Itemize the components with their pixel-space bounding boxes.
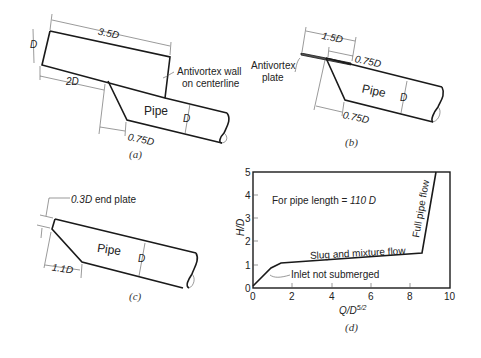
full-pipe-flow-label: Full pipe flow (410, 178, 431, 238)
y-tick-1: 1 (245, 260, 251, 271)
dim-0-75d-plate: 0.75D (354, 53, 382, 69)
dim-d-pipe-b: D (400, 92, 407, 103)
pipe-a-top (165, 98, 227, 113)
dim-2d: 2D (65, 76, 79, 87)
panel-c: 1.1D D Pipe 0.3D end plate (c) (37, 194, 197, 303)
caption-c: (c) (129, 290, 142, 303)
dim-0-75d-a: 0.75D (127, 131, 155, 147)
dim-3-5d: 3.5D (97, 26, 120, 41)
panel-a: 3.5D D 2D 0.75D D Pipe Antivortex wall o… (30, 14, 241, 161)
pipe-b-break (432, 87, 443, 122)
dim-1-1d: 1.1D (51, 262, 73, 276)
pipe-label-a: Pipe (144, 104, 168, 118)
pipe-c-break (187, 253, 197, 288)
pipe-c-top (55, 219, 196, 253)
plate-label: plate (262, 72, 284, 83)
x-tick-4: 4 (329, 291, 335, 302)
dim-d-pipe-c: D (138, 253, 145, 264)
y-tick-5: 5 (245, 167, 251, 178)
y-axis: 0 1 2 3 4 5 H/D (235, 167, 258, 294)
figure-canvas: 3.5D D 2D 0.75D D Pipe Antivortex wall o… (0, 0, 481, 358)
antivortex-wall-label: Antivortex wall (177, 66, 241, 77)
pipe-a-break (220, 113, 229, 143)
antivortex-wall-outline (42, 31, 170, 98)
y-axis-label: H/D (235, 219, 246, 236)
pipe-length-annotation: For pipe length = 110 D (272, 195, 376, 206)
centerline-label: on centerline (182, 78, 240, 89)
pipe-label-b: Pipe (361, 81, 388, 100)
y-tick-4: 4 (245, 190, 251, 201)
x-axis-label: Q/D5/2 (339, 304, 367, 316)
end-plate-label: 0.3D end plate (71, 194, 136, 205)
inlet-not-submerged-label: Inlet not submerged (291, 269, 379, 280)
caption-b: (b) (345, 136, 358, 149)
pipe-label-c: Pipe (96, 241, 122, 258)
caption-a: (a) (129, 148, 142, 161)
dim-d-height: D (30, 39, 37, 50)
chart-d: 0 1 2 3 4 5 H/D 0 2 4 6 8 10 Q/D5/2 For … (235, 167, 456, 334)
x-tick-0: 0 (250, 291, 256, 302)
y-tick-2: 2 (245, 236, 251, 247)
dim-0-75d-b: 0.75D (342, 109, 370, 125)
antivortex-plate-label: Antivortex (251, 60, 295, 71)
panel-b: 1.5D 0.75D 0.75D D Pipe Antivortex plate… (251, 27, 443, 149)
pipe-b-top (326, 58, 442, 87)
x-tick-8: 8 (407, 291, 413, 302)
dim-d-pipe-a: D (183, 113, 190, 124)
x-tick-6: 6 (368, 291, 374, 302)
x-tick-10: 10 (444, 291, 456, 302)
caption-d: (d) (345, 321, 358, 334)
dim-1-5d: 1.5D (321, 30, 344, 45)
slug-flow-label: Slug and mixture flow (310, 245, 407, 261)
x-tick-2: 2 (289, 291, 295, 302)
